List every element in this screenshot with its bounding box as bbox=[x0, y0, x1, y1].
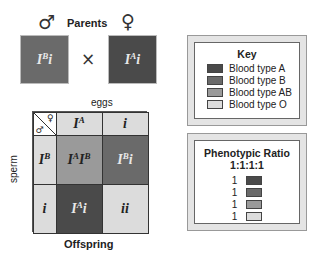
key-title: Key bbox=[195, 48, 299, 60]
swatch-icon bbox=[207, 76, 223, 85]
female-parent-box: IAi bbox=[108, 35, 157, 84]
row-header-IB: IB bbox=[33, 135, 57, 185]
eggs-label: eggs bbox=[91, 97, 113, 108]
corner-male-icon: ♂ bbox=[36, 125, 44, 135]
parents-title: Parents bbox=[67, 17, 107, 29]
col-header-i: i bbox=[102, 112, 149, 136]
swatch-icon bbox=[207, 88, 223, 97]
sperm-label: sperm bbox=[8, 155, 19, 183]
swatch-icon bbox=[246, 212, 262, 221]
key-item-b: Blood type B bbox=[207, 74, 299, 86]
key-item-a: Blood type A bbox=[207, 62, 299, 74]
ratio-item: 1 bbox=[195, 210, 299, 222]
offspring-cell-ii: ii bbox=[102, 184, 149, 234]
phenotypic-ratio-box: Phenotypic Ratio 1:1:1:1 1 1 1 1 bbox=[187, 133, 307, 231]
offspring-cell-IAi: IAi bbox=[56, 184, 103, 234]
row-header-i: i bbox=[33, 184, 57, 234]
ratio-value: 1:1:1:1 bbox=[195, 159, 299, 171]
offspring-cell-IAIB: IAIB bbox=[56, 135, 103, 185]
male-genotype: IBi bbox=[37, 51, 52, 68]
swatch-icon bbox=[246, 188, 262, 197]
swatch-icon bbox=[207, 100, 223, 109]
corner-female-icon: ♀ bbox=[47, 113, 54, 123]
swatch-icon bbox=[207, 64, 223, 73]
swatch-icon bbox=[246, 176, 262, 185]
key-item-ab: Blood type AB bbox=[207, 86, 299, 98]
ratio-item: 1 bbox=[195, 186, 299, 198]
corner-cell: ♂ ♀ bbox=[33, 112, 57, 136]
female-symbol-icon: ♀ bbox=[121, 12, 135, 31]
male-parent-box: IBi bbox=[20, 35, 69, 84]
male-symbol-icon: ♂ bbox=[38, 13, 55, 32]
ratio-item: 1 bbox=[195, 174, 299, 186]
offspring-cell-IBi: IBi bbox=[102, 135, 149, 185]
female-genotype: IAi bbox=[125, 51, 140, 68]
ratio-title: Phenotypic Ratio bbox=[195, 147, 299, 159]
col-header-IA: IA bbox=[56, 112, 103, 136]
swatch-icon bbox=[246, 200, 262, 209]
key-item-o: Blood type O bbox=[207, 98, 299, 110]
punnett-square: ♂ ♀ IA i IB IAIB IBi i IAi ii bbox=[32, 111, 147, 232]
key-box: Key Blood type A Blood type B Blood type… bbox=[187, 35, 307, 126]
offspring-label: Offspring bbox=[64, 238, 114, 250]
ratio-item: 1 bbox=[195, 198, 299, 210]
cross-icon: × bbox=[81, 49, 95, 69]
